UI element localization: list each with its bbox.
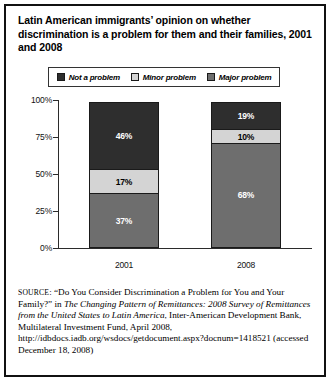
bar-segment-major-problem[interactable]: 37% (89, 193, 159, 248)
legend-swatch-icon (57, 73, 65, 81)
x-axis-label-2001: 2001 (89, 260, 159, 270)
y-tick-label: 25% (14, 206, 52, 216)
x-axis-line (58, 248, 312, 249)
y-tick-mark (53, 174, 58, 175)
chart-plot-area: 46% 17% 37% 2001 19% 10% 68% (59, 100, 312, 248)
source-keyword: SOURCE (18, 288, 49, 297)
stacked-bar-2008[interactable]: 19% 10% 68% (211, 102, 281, 248)
y-tick-label: 75% (14, 132, 52, 142)
chart-plot-wrapper: 100% 75% 50% 25% 0% 46% 17% 37% (6, 92, 324, 267)
bar-value-label: 19% (238, 111, 254, 121)
legend-swatch-icon (131, 73, 139, 81)
y-tick-label: 50% (14, 169, 52, 179)
bar-segment-not-a-problem[interactable]: 46% (89, 102, 159, 170)
bar-segment-major-problem[interactable]: 68% (211, 143, 281, 248)
y-tick-mark (53, 137, 58, 138)
y-tick-mark (53, 248, 58, 249)
figure-container: Latin American immigrants’ opinion on wh… (4, 4, 326, 377)
legend-swatch-icon (207, 73, 215, 81)
chart-legend: Not a problem Minor problem Major proble… (48, 67, 280, 87)
legend-label: Not a problem (69, 73, 120, 82)
bar-segment-minor-problem[interactable]: 10% (211, 129, 281, 144)
y-tick-mark (53, 100, 58, 101)
legend-label: Minor problem (143, 73, 196, 82)
bar-value-label: 68% (238, 190, 254, 200)
source-note: SOURCE: “Do You Consider Discrimination … (18, 287, 316, 357)
bar-segment-minor-problem[interactable]: 17% (89, 169, 159, 194)
stacked-bar-2001[interactable]: 46% 17% 37% (89, 102, 159, 248)
bar-value-label: 37% (116, 216, 132, 226)
legend-item-major-problem[interactable]: Major problem (207, 73, 272, 82)
y-tick-label: 0% (14, 243, 52, 253)
bar-value-label: 17% (116, 177, 132, 187)
y-axis-labels: 100% 75% 50% 25% 0% (14, 100, 52, 248)
x-axis-label-2008: 2008 (211, 260, 281, 270)
legend-label: Major problem (219, 73, 272, 82)
page-title: Latin American immigrants’ opinion on wh… (18, 14, 314, 55)
y-tick-mark (53, 211, 58, 212)
bar-value-label: 10% (238, 132, 254, 142)
legend-item-minor-problem[interactable]: Minor problem (131, 73, 196, 82)
y-tick-label: 100% (14, 95, 52, 105)
bar-value-label: 46% (116, 131, 132, 141)
legend-item-not-a-problem[interactable]: Not a problem (57, 73, 120, 82)
bar-segment-not-a-problem[interactable]: 19% (211, 102, 281, 130)
